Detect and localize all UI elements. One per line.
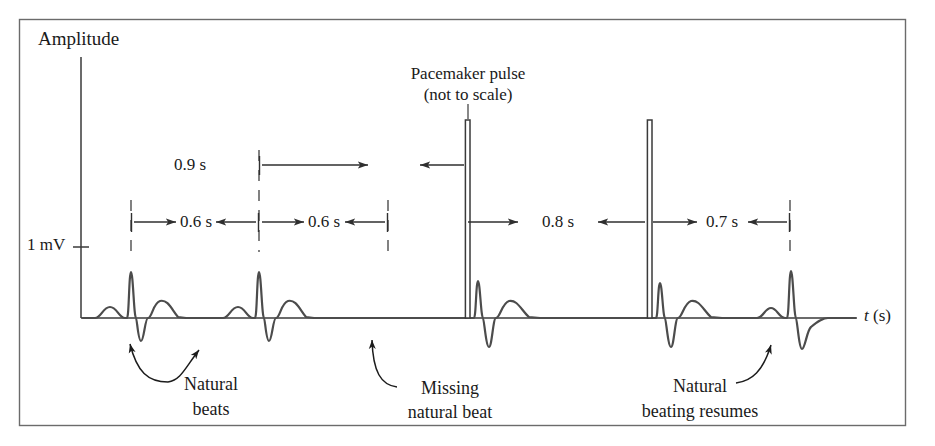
- callout-label-missing-beat-line2: natural beat: [408, 402, 492, 422]
- callout-label-missing-beat-line1: Missing: [421, 378, 479, 398]
- pacemaker-pulse-label-line2: (not to scale): [424, 85, 513, 104]
- pacemaker-pulse-spike-2: [647, 120, 652, 318]
- callout-label-resumes-line1: Natural: [673, 376, 727, 396]
- y-axis-tick-label: 1 mV: [27, 235, 65, 254]
- interval-label-0-7s: 0.7 s: [706, 212, 738, 231]
- interval-label-0-8s: 0.8 s: [542, 212, 574, 231]
- interval-label-0-6s-second: 0.6 s: [308, 212, 340, 231]
- x-axis-label: t (s): [864, 306, 891, 325]
- figure-container: Amplitude 1 mV t (s) Pacemaker pulse (no…: [0, 0, 935, 446]
- callout-label-natural-beats-line2: beats: [193, 399, 230, 419]
- interval-label-0-9s: 0.9 s: [174, 155, 206, 174]
- callout-label-natural-beats-line1: Natural: [184, 374, 238, 394]
- pacemaker-pulse-label-line1: Pacemaker pulse: [411, 64, 526, 83]
- callout-label-resumes-line2: beating resumes: [642, 401, 758, 421]
- x-axis-label-unit: (s): [873, 306, 891, 325]
- y-axis-label: Amplitude: [38, 28, 119, 49]
- interval-label-0-6s-first: 0.6 s: [180, 212, 212, 231]
- pacemaker-pulse-spike-1: [465, 120, 470, 318]
